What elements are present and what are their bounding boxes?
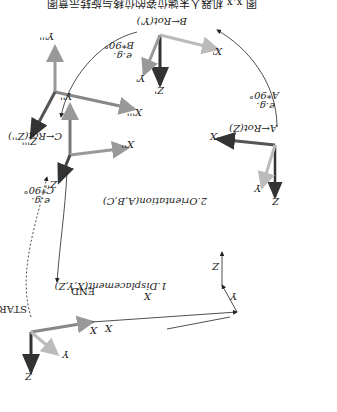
b-frame xyxy=(144,35,217,85)
start-y-label: Y xyxy=(62,349,69,360)
end-x-label: X''' xyxy=(127,107,142,118)
c-frame xyxy=(59,105,127,182)
path-y: Y xyxy=(230,291,237,302)
b-example-value: B*90° xyxy=(104,40,134,51)
c-y-label: Y'' xyxy=(60,91,72,102)
c-example: e.g. xyxy=(31,196,50,207)
b-y-label: Y' xyxy=(136,73,145,84)
figure-caption: 图 x.x 机器人末端位姿的位移与旋转示意图 xyxy=(47,0,257,12)
start-x-label: X xyxy=(90,325,97,336)
a-y-label: Y xyxy=(254,183,261,194)
end-z-label: Z''' xyxy=(22,136,37,147)
c-z-label: Z'' xyxy=(45,179,57,190)
b-rotation-label: B←Rot(Y') xyxy=(137,16,187,27)
transformation-diagram: START END 1.Displacement(X,Y,Z) 2.Orient… xyxy=(0,0,337,412)
a-frame xyxy=(217,139,275,197)
a-x-label: X xyxy=(210,131,217,142)
a-z-label: Z xyxy=(272,196,279,207)
a-rotation-label: A←Rot(Z) xyxy=(229,123,277,134)
end-y-label: Y''' xyxy=(39,31,54,42)
path-x1: X xyxy=(144,291,151,302)
path-x2: X xyxy=(105,323,112,334)
path-z: Z xyxy=(212,261,219,272)
start-label: START xyxy=(0,304,27,315)
c-x-label: X'' xyxy=(121,139,134,150)
b-x-label: X' xyxy=(212,46,222,57)
b-z-label: Z' xyxy=(154,85,164,96)
start-z-label: Z xyxy=(25,371,32,382)
b-example: e.g. xyxy=(113,51,132,62)
a-example: e.g. xyxy=(256,101,275,112)
orientation-label: 2.Orientation(A,B,C) xyxy=(103,196,207,207)
start-frame xyxy=(31,322,92,372)
a-example-value: A*90° xyxy=(249,90,279,101)
